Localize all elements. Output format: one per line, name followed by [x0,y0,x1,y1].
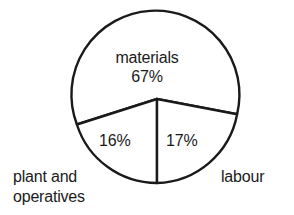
slice-label-labour: labour [221,167,264,186]
slice-label-materials: materials 67% [0,48,294,86]
pie-chart-figure: materials 67% 16% 17% plant and operativ… [0,0,294,215]
slice-label-materials-value: 67% [0,67,294,86]
slice-label-plant-and-operatives-line1: plant and [13,167,85,187]
slice-value-plant-and-operatives: 16% [99,131,130,150]
slice-label-plant-and-operatives: plant and operatives [13,167,85,207]
slice-label-plant-and-operatives-line2: operatives [13,187,85,207]
slice-label-materials-name: materials [0,48,294,67]
slice-value-labour: 17% [166,131,197,150]
